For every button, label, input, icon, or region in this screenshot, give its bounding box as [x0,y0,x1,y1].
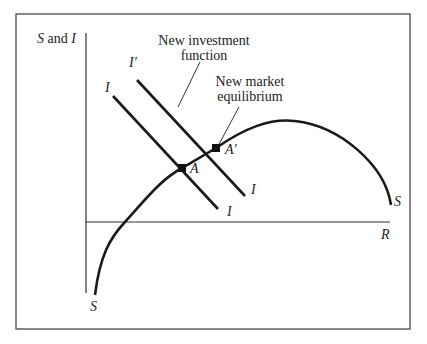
investment-new-label-bottom: I [251,182,256,197]
saving-curve [95,120,391,295]
y-axis-label-s: S [37,31,44,46]
saving-curve-label-right: S [394,194,401,209]
investment-original-label-bottom: I [227,204,232,219]
new-investment-text-1: New investment [150,33,258,48]
new-market-text-1: New market [200,74,300,89]
point-a-marker [178,164,186,172]
investment-line-original [113,96,218,209]
new-investment-annotation: New investment function [150,33,258,63]
investment-new-label-top: I′ [129,55,137,70]
new-market-annotation: New market equilibrium [200,74,300,104]
point-a-prime-label: A′ [225,142,237,157]
new-market-text-2: equilibrium [200,89,300,104]
new-investment-text-2: function [150,48,258,63]
new-investment-leader-line [178,62,200,107]
x-axis-label: R [381,227,390,242]
point-a-label: A [190,161,199,176]
point-a-prime-marker [212,144,220,152]
investment-original-label-top: I [105,80,110,95]
y-axis-label-i: I [71,31,76,46]
saving-curve-label-bottom: S [90,299,97,314]
y-axis-label: S and I [37,31,76,46]
y-axis-label-and: and [44,31,71,46]
